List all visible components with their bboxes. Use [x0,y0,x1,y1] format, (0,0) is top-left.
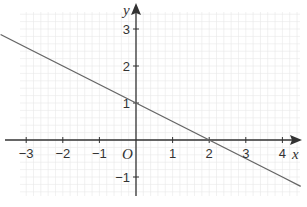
x-tick-label: 1 [169,146,176,161]
x-tick-label: −3 [19,146,34,161]
y-tick-label: 2 [123,59,130,74]
x-tick-label: 2 [206,146,213,161]
y-tick-label: −1 [115,170,130,185]
axes [5,3,302,196]
x-tick-label: −1 [92,146,107,161]
origin-label: O [122,146,133,162]
x-tick-label: 4 [279,146,286,161]
x-axis-label: x [291,146,299,162]
coordinate-plane: −3−2−11234−1123xyO [0,0,307,207]
x-tick-label: −2 [55,146,70,161]
y-tick-label: 1 [123,96,130,111]
axis-labels: −3−2−11234−1123xyO [19,2,299,185]
grid [20,12,300,196]
x-tick-label: 3 [242,146,249,161]
y-tick-label: 3 [123,22,130,37]
y-axis-label: y [121,2,130,18]
